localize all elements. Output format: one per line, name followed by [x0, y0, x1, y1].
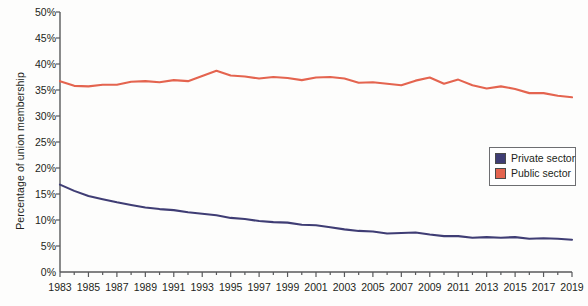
- series-line-private-sector: [60, 185, 572, 240]
- legend-swatch-icon: [495, 168, 506, 179]
- legend-label: Private sector: [511, 153, 575, 164]
- legend-label: Public sector: [511, 168, 571, 179]
- legend-swatch-icon: [495, 153, 506, 164]
- series-line-public-sector: [60, 71, 572, 98]
- legend-item-public-sector[interactable]: Public sector: [495, 166, 571, 181]
- legend: Private sector Public sector: [489, 147, 576, 186]
- legend-item-private-sector[interactable]: Private sector: [495, 151, 571, 166]
